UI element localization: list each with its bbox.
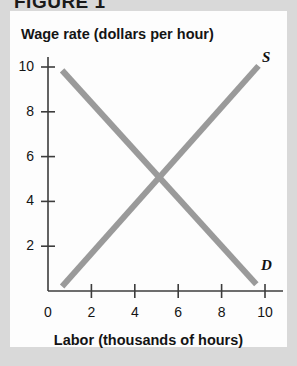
x-tick-label: 4 [122,304,148,320]
curve-label-s: S [262,49,270,66]
x-tick-label: 2 [78,304,104,320]
figure-container: FIGURE 1 Wage rate (dollars per hour) 24… [0,0,297,366]
curve-label-d: D [261,257,272,274]
y-tick-label: 4 [8,192,34,208]
y-tick-label: 10 [8,58,34,74]
x-tick-label: 0 [35,304,61,320]
y-tick-label: 6 [8,148,34,164]
x-tick-label: 10 [252,304,278,320]
x-tick-label: 8 [209,304,235,320]
x-tick-label: 6 [165,304,191,320]
y-tick-label: 2 [8,237,34,253]
x-axis-title: Labor (thousands of hours) [0,332,297,348]
curves-group [62,66,258,287]
y-tick-label: 8 [8,103,34,119]
